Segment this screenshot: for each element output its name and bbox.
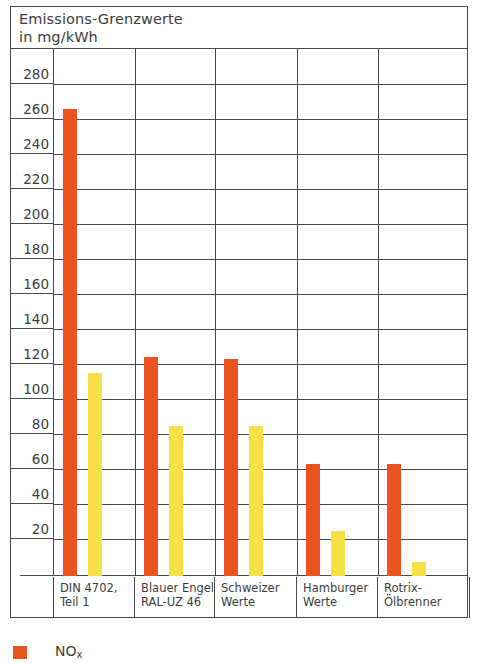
category-label-line2: RAL-UZ 46 <box>141 595 214 609</box>
bar-nox-4 <box>306 464 320 576</box>
category-label-4: HamburgerWerte <box>296 577 377 618</box>
gridline <box>54 364 467 365</box>
column-separator <box>378 49 379 576</box>
y-axis-tick-label: 140 <box>23 312 49 326</box>
y-axis-tick: 40 <box>11 469 53 504</box>
y-axis-tick-label: 220 <box>23 172 49 186</box>
category-label-line2: Teil 1 <box>60 595 134 609</box>
legend-entry-nox: NOx <box>13 644 82 660</box>
bar-co-5 <box>412 562 426 576</box>
category-label-line2: Werte <box>221 595 296 609</box>
y-axis-tick-label: 240 <box>23 137 49 151</box>
column-separator <box>297 49 298 576</box>
gridline <box>54 84 467 85</box>
y-axis-tick-label: 160 <box>23 277 49 291</box>
y-axis-tick-label: 40 <box>32 487 49 501</box>
y-axis-tick-label: 280 <box>23 67 49 81</box>
bar-co-3 <box>249 426 263 577</box>
y-axis-tick-label: 180 <box>23 242 49 256</box>
bar-nox-1 <box>63 109 77 576</box>
gridline <box>54 329 467 330</box>
bar-co-4 <box>331 531 345 577</box>
category-label-1: DIN 4702,Teil 1 <box>53 577 134 618</box>
legend-swatch-nox <box>13 646 27 659</box>
category-label-line2: Ölbrenner <box>384 595 469 609</box>
gridline <box>54 119 467 120</box>
y-axis-tick-label: 120 <box>23 347 49 361</box>
gridline <box>54 259 467 260</box>
plot-area <box>53 49 467 576</box>
category-label-line2: Werte <box>303 595 377 609</box>
y-axis-tick: 100 <box>11 364 53 399</box>
chart-legend: NOx <box>13 644 82 660</box>
y-axis-tick-label: 260 <box>23 102 49 116</box>
gridline <box>54 224 467 225</box>
y-axis-tick: 140 <box>11 294 53 329</box>
y-axis-tick: 260 <box>11 84 53 119</box>
category-label-line1: Schweizer <box>221 581 296 595</box>
y-axis-tick-label: 100 <box>23 382 49 396</box>
bar-co-2 <box>169 426 183 577</box>
category-label-line1: Blauer Engel <box>141 581 214 595</box>
category-label-strip: DIN 4702,Teil 1Blauer EngelRAL-UZ 46Schw… <box>53 577 467 618</box>
column-separator <box>215 49 216 576</box>
gridline <box>54 399 467 400</box>
y-axis-tick: 280 <box>11 49 53 84</box>
y-axis-tick: 220 <box>11 154 53 189</box>
y-axis-tick: 200 <box>11 189 53 224</box>
y-axis-tick: 160 <box>11 259 53 294</box>
y-axis-tick: 80 <box>11 399 53 434</box>
y-axis-tick: 20 <box>11 504 53 539</box>
bar-nox-2 <box>144 357 158 576</box>
y-axis-tick: 120 <box>11 329 53 364</box>
column-separator <box>135 49 136 576</box>
legend-label-subscript: x <box>77 649 83 660</box>
bar-co-1 <box>88 373 102 576</box>
category-label-line1: Hamburger <box>303 581 377 595</box>
category-strip-end-rule <box>469 577 476 618</box>
chart-frame: Emissions-Grenzwerte in mg/kWh 280260240… <box>10 6 468 618</box>
gridline <box>54 189 467 190</box>
y-axis-tick: 180 <box>11 224 53 259</box>
category-label-line1: DIN 4702, <box>60 581 134 595</box>
chart-title: Emissions-Grenzwerte <box>19 10 467 28</box>
legend-label-nox: NOx <box>55 643 82 661</box>
bar-nox-3 <box>224 359 238 576</box>
category-label-line1: Rotrix- <box>384 581 469 595</box>
gridline <box>54 154 467 155</box>
category-label-3: SchweizerWerte <box>214 577 296 618</box>
y-axis-labels: 28026024022020018016014012010080604020 <box>11 49 53 576</box>
bar-nox-5 <box>387 464 401 576</box>
y-axis-tick-label: 80 <box>32 417 49 431</box>
legend-label-main: NO <box>55 643 77 659</box>
y-axis-tick-label: 60 <box>32 452 49 466</box>
chart-subtitle: in mg/kWh <box>19 28 467 46</box>
y-axis-tick-label: 200 <box>23 207 49 221</box>
category-label-2: Blauer EngelRAL-UZ 46 <box>134 577 214 618</box>
y-axis-tick: 60 <box>11 434 53 469</box>
chart-title-block: Emissions-Grenzwerte in mg/kWh <box>11 7 467 49</box>
y-axis-tick-label: 20 <box>32 522 49 536</box>
gridline <box>54 294 467 295</box>
y-axis-tick: 240 <box>11 119 53 154</box>
category-label-5: Rotrix-Ölbrenner <box>377 577 469 618</box>
